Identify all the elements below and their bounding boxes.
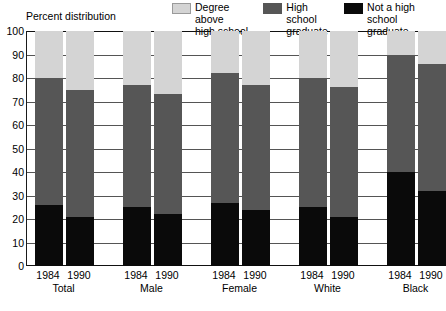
x-axis-year-label: 1984 (212, 269, 235, 281)
bar-white-1990 (330, 31, 358, 266)
segment-not-a-high-school-graduate (35, 205, 63, 266)
segment-degree-above-high-school (211, 31, 239, 73)
dark-gray-swatch-icon (263, 3, 282, 14)
axis-note: Percent distribution (26, 10, 116, 22)
plot-area: 0102030405060708090100 (26, 31, 437, 266)
x-axis-year-label: 1984 (388, 269, 411, 281)
bar-total-1984 (35, 31, 63, 266)
y-axis-tick-50: 50 (12, 143, 24, 154)
segment-degree-above-high-school (418, 31, 446, 64)
bar-male-1984 (123, 31, 151, 266)
x-axis-labels: 1984199019841990198419901984199019841990… (0, 269, 446, 311)
segment-not-a-high-school-graduate (66, 217, 94, 266)
x-axis-group-label: White (314, 282, 341, 295)
x-axis-year-label: 1990 (419, 269, 442, 281)
x-axis-group-label: Male (140, 282, 163, 295)
bar-total-1990 (66, 31, 94, 266)
segment-not-a-high-school-graduate (123, 207, 151, 266)
segment-degree-above-high-school (66, 31, 94, 90)
segment-degree-above-high-school (330, 31, 358, 87)
bar-black-1990 (418, 31, 446, 266)
bar-male-1990 (154, 31, 182, 266)
segment-high-school-graduate (418, 64, 446, 191)
y-axis-tick-70: 70 (12, 96, 24, 107)
chart-page: Degree above high school High school gra… (0, 0, 446, 311)
segment-high-school-graduate (154, 94, 182, 214)
x-axis-year-label: 1990 (331, 269, 354, 281)
x-axis-year-label: 1990 (243, 269, 266, 281)
segment-not-a-high-school-graduate (154, 214, 182, 266)
chart-legend: Degree above high school High school gra… (172, 1, 444, 29)
segment-high-school-graduate (211, 73, 239, 202)
bar-black-1984 (387, 31, 415, 266)
segment-high-school-graduate (66, 90, 94, 217)
x-axis-year-label: 1984 (36, 269, 59, 281)
segment-high-school-graduate (123, 85, 151, 207)
y-axis-tick-40: 40 (12, 167, 24, 178)
y-axis-tick-30: 30 (12, 190, 24, 201)
y-axis-tick-60: 60 (12, 120, 24, 131)
segment-not-a-high-school-graduate (211, 203, 239, 266)
y-axis-tick-10: 10 (12, 237, 24, 248)
y-axis-tick-100: 100 (6, 26, 24, 37)
segment-degree-above-high-school (154, 31, 182, 94)
bar-white-1984 (299, 31, 327, 266)
segment-high-school-graduate (35, 78, 63, 205)
segment-not-a-high-school-graduate (299, 207, 327, 266)
y-axis-tick-80: 80 (12, 73, 24, 84)
y-axis-tick-90: 90 (12, 49, 24, 60)
x-axis-group-label: Female (222, 282, 257, 295)
segment-degree-above-high-school (387, 31, 415, 55)
segment-high-school-graduate (387, 55, 415, 173)
segment-degree-above-high-school (123, 31, 151, 85)
segment-degree-above-high-school (242, 31, 270, 85)
x-axis-year-label: 1984 (124, 269, 147, 281)
light-gray-swatch-icon (172, 3, 191, 14)
x-axis-group-label: Total (52, 282, 74, 295)
x-axis-year-label: 1990 (155, 269, 178, 281)
segment-not-a-high-school-graduate (387, 172, 415, 266)
x-axis-group-label: Black (403, 282, 429, 295)
bar-female-1990 (242, 31, 270, 266)
segment-not-a-high-school-graduate (330, 217, 358, 266)
segment-not-a-high-school-graduate (418, 191, 446, 266)
x-axis-year-label: 1990 (67, 269, 90, 281)
segment-high-school-graduate (299, 78, 327, 207)
segment-high-school-graduate (242, 85, 270, 210)
segment-high-school-graduate (330, 87, 358, 216)
segment-degree-above-high-school (35, 31, 63, 78)
segment-degree-above-high-school (299, 31, 327, 78)
y-axis-tick-20: 20 (12, 214, 24, 225)
x-axis-year-label: 1984 (300, 269, 323, 281)
segment-not-a-high-school-graduate (242, 210, 270, 266)
black-swatch-icon (344, 3, 363, 14)
bar-female-1984 (211, 31, 239, 266)
